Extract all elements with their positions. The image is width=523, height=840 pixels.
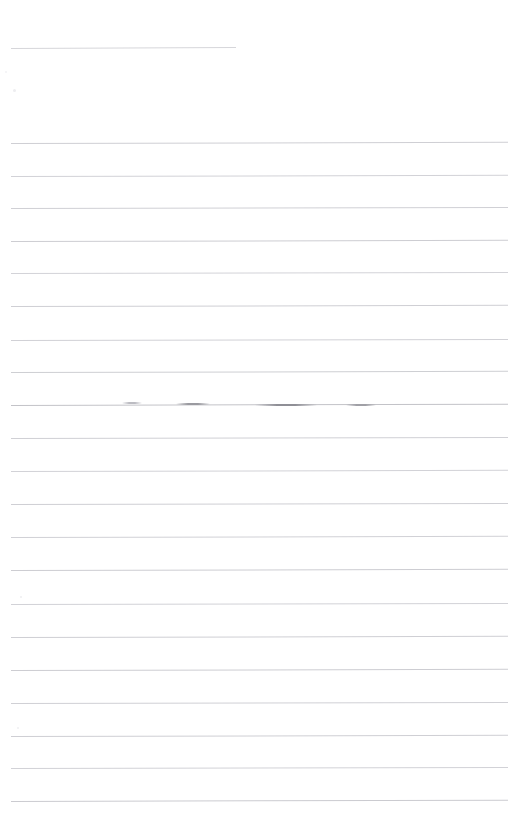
- ruled-line: [11, 767, 508, 769]
- ruled-line: [11, 240, 508, 242]
- scan-speck: [5, 71, 7, 73]
- ruled-line: [11, 339, 508, 341]
- ruled-line: [11, 503, 508, 505]
- ruled-line: [11, 735, 508, 737]
- ruled-line: [11, 437, 508, 439]
- ruled-line: [11, 47, 236, 49]
- ink-smudge: [255, 404, 317, 406]
- ruled-line: [11, 536, 508, 538]
- scan-speck: [17, 727, 19, 729]
- ink-smudge: [346, 404, 376, 406]
- ink-smudge: [122, 402, 142, 404]
- ruled-line: [11, 175, 508, 177]
- ruled-line: [11, 142, 508, 144]
- ruled-line: [11, 636, 508, 638]
- ruled-line: [11, 305, 508, 307]
- ruled-line: [11, 272, 508, 274]
- ruled-line: [11, 371, 508, 373]
- ruled-line: [11, 702, 508, 704]
- ruled-line: [11, 470, 508, 472]
- scan-speck: [20, 596, 22, 598]
- ruled-line: [11, 603, 508, 605]
- ruled-line: [11, 569, 508, 571]
- ruled-line: [11, 669, 508, 671]
- scan-speck: [13, 89, 16, 92]
- scanned-document-page: [0, 0, 523, 840]
- ruled-line: [11, 207, 508, 209]
- ruled-line: [11, 800, 508, 802]
- page-body-text: [0, 0, 523, 840]
- ink-smudge: [176, 403, 210, 405]
